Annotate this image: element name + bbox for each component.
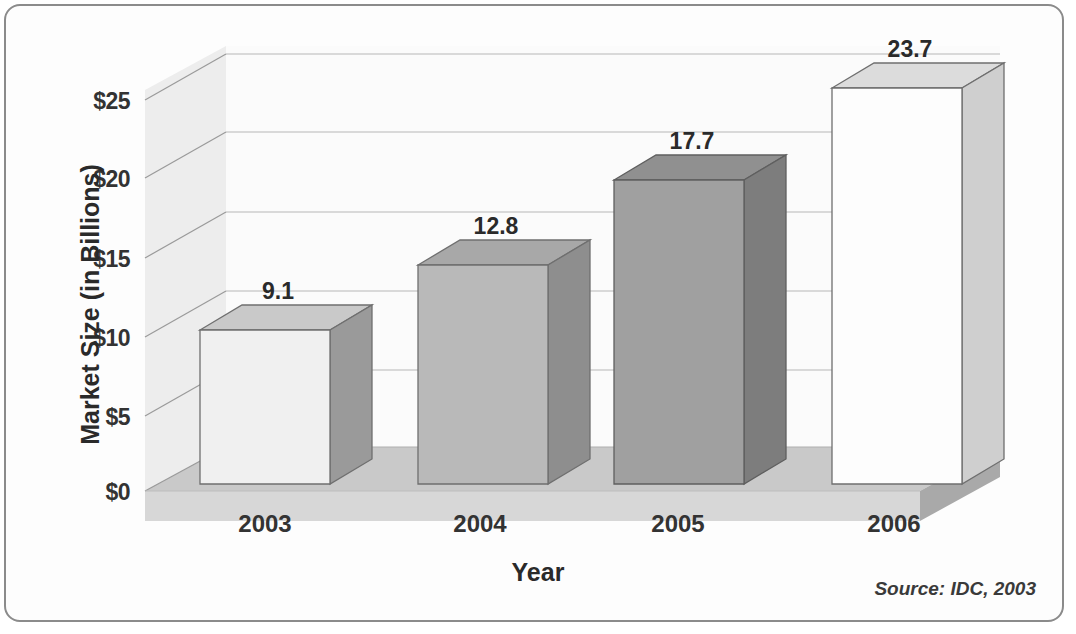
bar-side-2003 [330,305,372,484]
xtick-label-2005: 2005 [618,510,738,538]
chart-figure: $25 $20 $15 $10 $5 $0 Market Size (in Bi… [0,0,1076,634]
bar-front-2006 [832,88,962,484]
bar-side-2005 [744,155,786,484]
bar-side-2006 [962,63,1004,484]
xtick-label-2003: 2003 [205,510,325,538]
chart-plot-area [0,0,1076,634]
data-label-2006: 23.7 [850,36,970,63]
source-note: Source: IDC, 2003 [874,578,1036,600]
data-label-2005: 17.7 [632,128,752,155]
ytick-label-25: $25 [20,88,130,115]
bar-front-2005 [614,180,744,484]
chart-svg [0,0,1076,634]
xtick-label-2004: 2004 [420,510,540,538]
bar-side-2004 [548,240,590,484]
bar-front-2004 [418,265,548,484]
y-axis-label: Market Size (in Billions) [76,155,105,455]
ytick-label-0: $0 [20,479,130,506]
data-label-2003: 9.1 [218,278,338,305]
xtick-label-2006: 2006 [834,510,954,538]
bar-front-2003 [200,330,330,484]
data-label-2004: 12.8 [436,213,556,240]
